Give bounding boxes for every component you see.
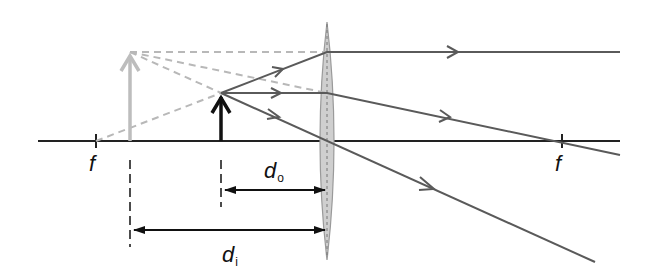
object-arrow	[212, 97, 230, 141]
lens-ray-diagram: f f do di	[0, 0, 648, 276]
object-distance-symbol: d	[264, 158, 276, 183]
object-distance-label: do	[264, 160, 284, 182]
image-distance-label: di	[222, 244, 238, 266]
virtual-image-arrow	[121, 56, 139, 141]
image-distance-subscript: i	[235, 255, 238, 269]
focal-label-right: f	[555, 153, 561, 175]
object-distance-subscript: o	[277, 171, 284, 185]
focal-label-left: f	[89, 153, 95, 175]
image-distance-symbol: d	[222, 242, 234, 267]
ray-direction-arrows	[267, 46, 458, 190]
ray-diagram-canvas	[0, 0, 648, 276]
